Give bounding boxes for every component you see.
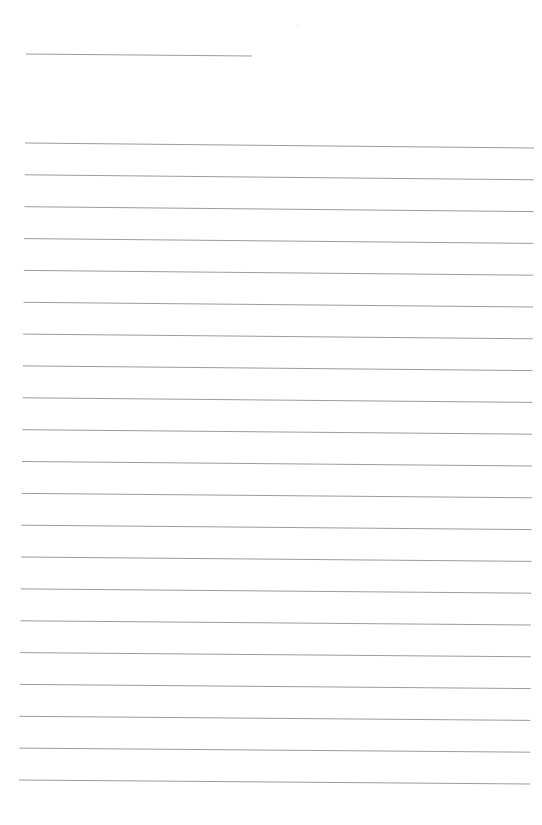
paper-speck: [297, 25, 299, 27]
lined-paper-page: [0, 0, 542, 825]
header-line: [26, 54, 252, 56]
ruled-line: [24, 270, 533, 275]
ruled-line: [23, 398, 533, 403]
ruled-line: [22, 430, 532, 435]
ruled-line: [21, 525, 531, 529]
ruled-line: [20, 684, 531, 688]
ruled-lines-group: [19, 143, 534, 784]
ruled-line: [22, 462, 532, 467]
ruled-line: [24, 239, 533, 244]
ruled-line: [21, 621, 532, 625]
ruled-line: [23, 334, 533, 339]
ruled-line: [19, 748, 530, 752]
ruled-line: [25, 143, 534, 148]
ruled-lines: [0, 0, 542, 825]
ruled-line: [24, 302, 534, 307]
ruled-line: [20, 653, 531, 657]
ruled-line: [19, 780, 530, 784]
ruled-line: [20, 716, 531, 720]
ruled-line: [21, 589, 531, 593]
ruled-line: [21, 557, 531, 561]
ruled-line: [23, 366, 533, 371]
ruled-line: [24, 207, 533, 212]
ruled-line: [25, 175, 534, 180]
ruled-line: [22, 493, 532, 497]
